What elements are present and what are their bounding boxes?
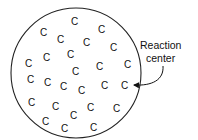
chlorophyll-molecule: C bbox=[61, 123, 68, 134]
chlorophyll-molecules: CCCCCCCCCCCCCCCCCCCCCCCCCC bbox=[25, 16, 131, 134]
chlorophyll-molecule: C bbox=[60, 81, 67, 92]
label-center: center bbox=[146, 52, 176, 64]
chlorophyll-molecule: C bbox=[110, 42, 117, 53]
arrow-icon bbox=[134, 66, 163, 85]
chlorophyll-molecule: C bbox=[71, 16, 78, 27]
chlorophyll-molecule: C bbox=[27, 74, 34, 85]
chlorophyll-molecule: C bbox=[44, 77, 51, 88]
chlorophyll-molecule: C bbox=[113, 103, 120, 114]
chlorophyll-molecule: C bbox=[87, 102, 94, 113]
reaction-center-diagram: CCCCCCCCCCCCCCCCCCCCCCCCCC Reaction cent… bbox=[0, 0, 198, 140]
chlorophyll-molecule: C bbox=[90, 122, 97, 133]
chlorophyll-molecule: C bbox=[72, 66, 79, 77]
chlorophyll-molecule: C bbox=[70, 110, 77, 121]
chlorophyll-molecule: C bbox=[42, 116, 49, 127]
chlorophyll-molecule: C bbox=[101, 80, 108, 91]
chlorophyll-molecule: C bbox=[25, 58, 32, 69]
chlorophyll-molecule: C bbox=[124, 59, 131, 70]
label-reaction: Reaction bbox=[140, 39, 182, 51]
chlorophyll-molecule: C bbox=[57, 34, 64, 45]
chlorophyll-molecule: C bbox=[52, 101, 59, 112]
chlorophyll-molecule: C bbox=[43, 52, 50, 63]
chlorophyll-molecule: C bbox=[98, 24, 105, 35]
chlorophyll-molecule: C bbox=[83, 37, 90, 48]
chlorophyll-molecule: C bbox=[40, 27, 47, 38]
reaction-center-molecule: C bbox=[121, 80, 128, 91]
chlorophyll-molecule: C bbox=[96, 61, 103, 72]
chlorophyll-molecule: C bbox=[28, 97, 35, 108]
chlorophyll-molecule: C bbox=[78, 85, 85, 96]
chlorophyll-molecule: C bbox=[67, 49, 74, 60]
